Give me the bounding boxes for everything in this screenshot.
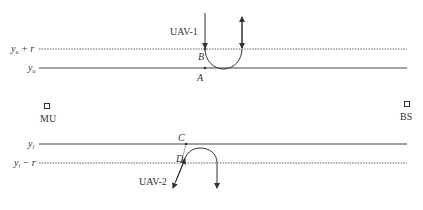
bs-node-icon xyxy=(405,102,410,107)
uav1-label: UAV-1 xyxy=(170,26,198,37)
point-a-label: A xyxy=(196,72,204,83)
label-yl-minus-r: yl − r xyxy=(13,157,36,169)
point-c-label: C xyxy=(178,132,185,143)
bs-label: BS xyxy=(400,111,412,122)
mu-label: MU xyxy=(40,113,57,124)
label-yl: yl xyxy=(27,138,34,150)
point-d-label: D xyxy=(175,153,184,164)
label-yu-plus-r: yu + r xyxy=(10,43,34,55)
uav2-trajectory xyxy=(173,143,217,188)
uav1-trajectory xyxy=(204,13,242,69)
mu-node-icon xyxy=(45,104,50,109)
point-b-label: B xyxy=(198,51,204,62)
uav-trajectory-diagram: yu + r yu yl yl − r UAV-1 B A UAV-2 C D … xyxy=(0,0,423,210)
label-yu: yu xyxy=(27,62,35,74)
uav2-label: UAV-2 xyxy=(139,176,167,187)
